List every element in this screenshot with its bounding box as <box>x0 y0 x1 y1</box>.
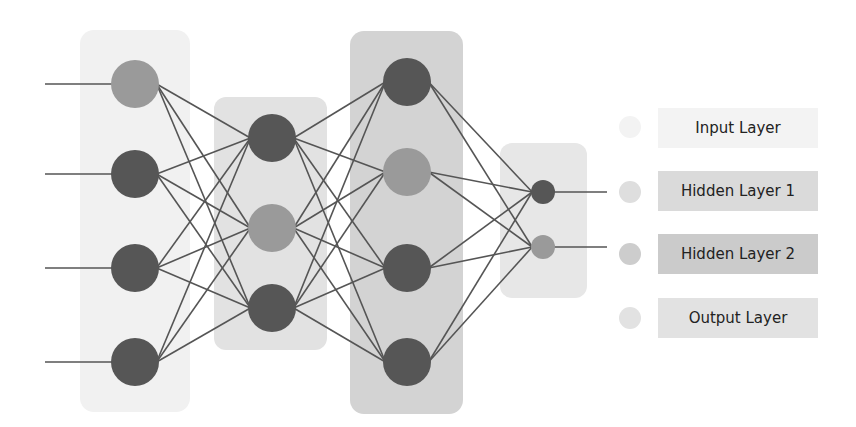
output-neuron <box>531 180 555 204</box>
legend-label-hidden-2: Hidden Layer 2 <box>658 234 818 274</box>
hidden-2-neuron <box>383 338 431 386</box>
input-neuron <box>111 150 159 198</box>
legend-swatch-hidden-1 <box>619 181 641 203</box>
output-layer-box <box>500 143 587 298</box>
hidden-2-neuron <box>383 244 431 292</box>
legend-label-input: Input Layer <box>658 108 818 148</box>
hidden-1-neuron <box>248 114 296 162</box>
hidden-2-neuron <box>383 148 431 196</box>
input-neuron <box>111 244 159 292</box>
hidden-1-neuron <box>248 284 296 332</box>
hidden-1-neuron <box>248 204 296 252</box>
input-neuron <box>111 60 159 108</box>
output-neuron <box>531 235 555 259</box>
legend-label-hidden-1: Hidden Layer 1 <box>658 171 818 211</box>
legend-swatch-hidden-2 <box>619 243 641 265</box>
legend-label-output: Output Layer <box>658 298 818 338</box>
input-neuron <box>111 338 159 386</box>
neural-network-diagram <box>0 0 856 427</box>
hidden-2-neuron <box>383 58 431 106</box>
legend-swatch-input <box>619 116 641 138</box>
legend-swatch-output <box>619 307 641 329</box>
